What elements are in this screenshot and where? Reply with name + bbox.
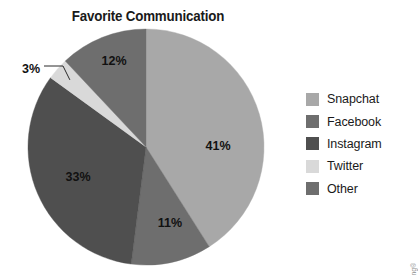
pie-label-twitter: 3% bbox=[22, 62, 40, 76]
legend-label-facebook: Facebook bbox=[327, 115, 381, 129]
legend-label-twitter: Twitter bbox=[327, 159, 363, 173]
pie-chart-figure: Favorite Communication 41% 11% 33% 12% 3… bbox=[0, 0, 418, 275]
pie-svg: 41% 11% 33% 12% 3% bbox=[0, 0, 296, 275]
pie-label-facebook: 11% bbox=[158, 216, 182, 230]
pie-label-instagram: 33% bbox=[65, 170, 90, 184]
pie-label-snapchat: 41% bbox=[205, 139, 230, 153]
legend: Snapchat Facebook Instagram Twitter Othe… bbox=[306, 88, 398, 200]
pie-chart-area: 41% 11% 33% 12% 3% bbox=[0, 0, 296, 275]
legend-swatch-facebook bbox=[306, 115, 319, 128]
legend-swatch-other bbox=[306, 182, 319, 195]
pie-label-other: 12% bbox=[101, 54, 126, 68]
legend-item-snapchat[interactable]: Snapchat bbox=[306, 88, 398, 110]
legend-item-twitter[interactable]: Twitter bbox=[306, 155, 398, 177]
legend-item-facebook[interactable]: Facebook bbox=[306, 110, 398, 132]
legend-swatch-snapchat bbox=[306, 93, 319, 106]
legend-label-other: Other bbox=[327, 182, 358, 196]
legend-swatch-instagram bbox=[306, 137, 319, 150]
legend-label-instagram: Instagram bbox=[327, 137, 382, 151]
legend-swatch-twitter bbox=[306, 160, 319, 173]
legend-item-other[interactable]: Other bbox=[306, 178, 398, 200]
legend-item-instagram[interactable]: Instagram bbox=[306, 133, 398, 155]
source-credit: Source: © 2016 Cengage Learning® bbox=[410, 263, 417, 275]
legend-label-snapchat: Snapchat bbox=[327, 92, 379, 106]
